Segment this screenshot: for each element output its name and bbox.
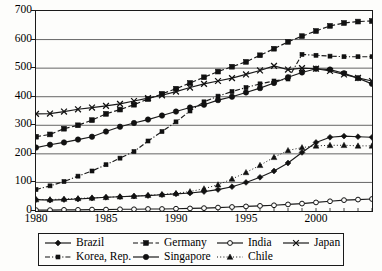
- chart-plot-region: 0100200300400500600700 19801985199019952…: [0, 0, 382, 224]
- y-axis-tick-label: 300: [2, 118, 32, 130]
- x-axis-tick-label: 1980: [25, 213, 48, 225]
- legend-label: Korea, Rep.: [76, 251, 131, 263]
- y-axis-labels: 0100200300400500600700: [0, 0, 32, 224]
- y-axis-tick-label: 600: [2, 33, 32, 45]
- legend-label: Brazil: [76, 237, 104, 249]
- legend-item: India: [215, 237, 272, 249]
- legend-item: Japan: [281, 237, 340, 249]
- legend-key-line-square-dashed: [131, 237, 161, 249]
- legend-row: Korea, Rep.SingaporeChile: [43, 250, 339, 264]
- legend-item: Korea, Rep.: [43, 251, 131, 263]
- x-axis-tick-label: 1990: [165, 213, 188, 225]
- y-axis-tick-label: 100: [2, 175, 32, 187]
- legend-item: Chile: [215, 251, 273, 263]
- legend-row: BrazilGermanyIndiaJapan: [43, 236, 339, 250]
- y-axis-tick-label: 400: [2, 90, 32, 102]
- legend-key-line-circle-open-solid: [215, 237, 245, 249]
- plot-frame: [35, 10, 373, 212]
- chart-figure: 0100200300400500600700 19801985199019952…: [0, 0, 382, 271]
- x-axis-tick-label: 2000: [305, 213, 328, 225]
- legend-item: Germany: [131, 237, 207, 249]
- y-axis-tick-label: 700: [2, 4, 32, 16]
- legend-label: India: [248, 237, 272, 249]
- legend-item: Brazil: [43, 237, 104, 249]
- chart-legend: BrazilGermanyIndiaJapanKorea, Rep.Singap…: [38, 233, 344, 266]
- y-axis-tick-label: 200: [2, 147, 32, 159]
- legend-key-line-square-dashdot: [43, 251, 73, 263]
- legend-key-line-circle-filled-solid: [131, 251, 161, 263]
- x-axis-labels: 19801985199019952000: [0, 213, 382, 227]
- legend-key-line-diamond-solid: [43, 237, 73, 249]
- legend-label: Singapore: [164, 251, 211, 263]
- legend-item: Singapore: [131, 251, 211, 263]
- x-axis-tick-label: 1995: [235, 213, 258, 225]
- y-axis-tick-label: 500: [2, 61, 32, 73]
- legend-label: Chile: [248, 251, 273, 263]
- legend-key-line-x-solid: [281, 237, 311, 249]
- legend-label: Japan: [314, 237, 340, 249]
- legend-key-line-triangle-dotted: [215, 251, 245, 263]
- series-canvas: [36, 11, 372, 211]
- x-axis-tick-label: 1985: [95, 213, 118, 225]
- legend-label: Germany: [164, 237, 207, 249]
